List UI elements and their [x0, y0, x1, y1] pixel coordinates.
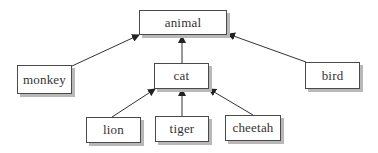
edge-monkey-animal: [72, 35, 139, 66]
node-label: bird: [322, 68, 344, 84]
edge-cheetah-cat: [209, 89, 253, 115]
node-label: tiger: [170, 121, 195, 137]
node-label: monkey: [23, 72, 66, 88]
node-cat: cat: [154, 63, 209, 89]
edge-bird-animal: [228, 34, 306, 62]
node-label: cheetah: [232, 120, 273, 136]
node-tiger: tiger: [155, 116, 209, 142]
node-lion: lion: [86, 117, 141, 143]
node-cheetah: cheetah: [225, 115, 281, 141]
node-label: lion: [103, 122, 124, 138]
node-bird: bird: [305, 62, 360, 89]
edge-lion-cat: [112, 89, 155, 117]
node-label: cat: [174, 68, 190, 84]
node-animal: animal: [139, 10, 227, 35]
node-label: animal: [165, 15, 202, 31]
node-monkey: monkey: [17, 65, 72, 94]
